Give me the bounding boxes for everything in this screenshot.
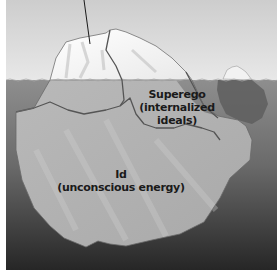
superego-desc-1: (internalized [134,101,220,114]
superego-label: Superego (internalized ideals) [134,88,220,127]
id-desc: (unconscious energy) [56,181,186,194]
superego-title: Superego [134,88,220,101]
superego-desc-2: ideals) [134,114,220,127]
id-label: Id (unconscious energy) [56,168,186,194]
id-title: Id [56,168,186,181]
iceberg-diagram: Superego (internalized ideals) Id (uncon… [6,0,277,270]
iceberg-illustration [6,0,277,270]
